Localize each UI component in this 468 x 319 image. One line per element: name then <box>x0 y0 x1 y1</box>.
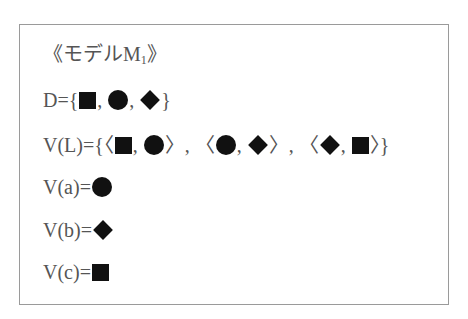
close-angle: 〉 <box>370 134 380 156</box>
diamond-icon <box>320 136 340 156</box>
square-icon <box>92 264 109 281</box>
square-icon <box>79 92 96 109</box>
close-brace: } <box>380 134 390 156</box>
separator: , <box>185 134 195 156</box>
circle-icon <box>144 135 164 155</box>
open-angle: 〈 <box>104 134 114 156</box>
square-icon <box>352 137 369 154</box>
valuation-b-label: V(b)= <box>43 219 92 241</box>
separator: , <box>133 134 143 156</box>
separator: , <box>237 134 247 156</box>
title-text: 《モデルM <box>43 43 141 65</box>
valuation-b-line: V(b)= <box>43 218 114 242</box>
close-angle: 〉 <box>165 134 185 156</box>
domain-label: D={ <box>43 89 78 111</box>
circle-icon <box>108 90 128 110</box>
valuation-L-label: V(L)={ <box>43 134 104 156</box>
separator: , <box>289 134 299 156</box>
valuation-a-label: V(a)= <box>43 176 91 198</box>
open-angle: 〈 <box>195 134 215 156</box>
circle-icon <box>92 177 112 197</box>
domain-line: D={, , } <box>43 88 171 112</box>
circle-icon <box>216 135 236 155</box>
separator: , <box>129 89 139 111</box>
separator: , <box>341 134 351 156</box>
valuation-L-line: V(L)={〈, 〉, 〈, 〉, 〈, 〉} <box>43 133 389 157</box>
valuation-c-label: V(c)= <box>43 261 91 283</box>
close-angle: 〉 <box>269 134 289 156</box>
diamond-icon <box>140 91 160 111</box>
diamond-icon <box>248 136 268 156</box>
separator: , <box>97 89 107 111</box>
square-icon <box>115 137 132 154</box>
close-brace: } <box>161 89 171 111</box>
valuation-c-line: V(c)= <box>43 260 110 284</box>
model-title: 《モデルM1》 <box>43 42 167 72</box>
open-angle: 〈 <box>299 134 319 156</box>
valuation-a-line: V(a)= <box>43 175 113 199</box>
diamond-icon <box>93 221 113 241</box>
title-suffix: 》 <box>147 43 167 65</box>
